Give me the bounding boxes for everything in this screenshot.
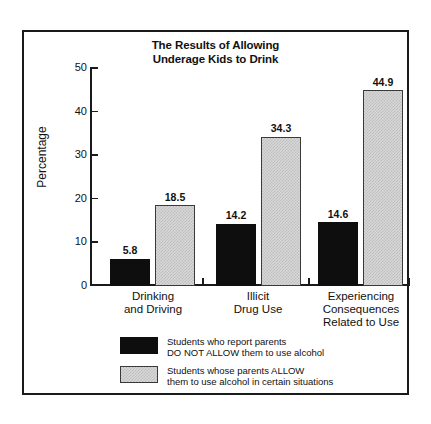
legend-label-allow-line-1: Students whose parents ALLOW <box>167 365 333 376</box>
chart-legend: Students who report parents DO NOT ALLOW… <box>120 336 410 394</box>
bar-value-experiencing-consequences-not-allowed: 14.6 <box>316 209 360 220</box>
category-label-experiencing-consequences-line-2: Consequences <box>296 303 426 316</box>
y-tick-20 <box>92 198 98 200</box>
legend-item-allow[interactable]: Students whose parents ALLOW them to use… <box>120 365 410 387</box>
y-tick-40 <box>92 111 98 113</box>
bar-value-experiencing-consequences-allowed: 44.9 <box>361 77 405 88</box>
y-tick-label-20: 20 <box>47 193 87 204</box>
y-tick-label-10: 10 <box>47 236 87 247</box>
legend-swatch-dark-icon <box>120 337 158 354</box>
y-tick-50 <box>92 67 98 69</box>
category-label-experiencing-consequences-line-1: Experiencing <box>296 290 426 303</box>
legend-label-allow: Students whose parents ALLOW them to use… <box>167 365 333 387</box>
bar-value-drinking-and-driving-not-allowed: 5.8 <box>110 245 150 256</box>
category-label-experiencing-consequences: Experiencing Consequences Related to Use <box>296 290 426 329</box>
x-tick-group-divider-2 <box>308 278 310 285</box>
bar-illicit-drug-use-allowed[interactable] <box>261 137 301 287</box>
legend-swatch-light-icon <box>120 366 158 383</box>
bar-value-illicit-drug-use-allowed: 34.3 <box>259 123 303 134</box>
bar-experiencing-consequences-not-allowed[interactable] <box>318 222 358 286</box>
legend-label-do-not-allow: Students who report parents DO NOT ALLOW… <box>167 336 324 358</box>
bar-illicit-drug-use-not-allowed[interactable] <box>216 224 256 286</box>
y-tick-label-0: 0 <box>47 280 87 291</box>
legend-item-do-not-allow[interactable]: Students who report parents DO NOT ALLOW… <box>120 336 410 358</box>
legend-label-do-not-allow-line-1: Students who report parents <box>167 336 324 347</box>
legend-label-allow-line-2: them to use alcohol in certain situation… <box>167 376 333 387</box>
y-tick-label-30: 30 <box>47 149 87 160</box>
y-tick-label-50: 50 <box>47 62 87 73</box>
bar-experiencing-consequences-allowed[interactable] <box>363 90 403 286</box>
figure-frame: The Results of Allowing Underage Kids to… <box>22 30 409 395</box>
y-tick-label-40: 40 <box>47 106 87 117</box>
y-axis-line <box>90 67 92 286</box>
y-tick-10 <box>92 241 98 243</box>
y-tick-30 <box>92 154 98 156</box>
legend-label-do-not-allow-line-2: DO NOT ALLOW them to use alcohol <box>167 347 324 358</box>
bar-value-drinking-and-driving-allowed: 18.5 <box>153 192 197 203</box>
bar-drinking-and-driving-allowed[interactable] <box>155 205 195 286</box>
bar-drinking-and-driving-not-allowed[interactable] <box>110 259 150 286</box>
x-tick-group-divider-1 <box>202 278 204 285</box>
category-label-experiencing-consequences-line-3: Related to Use <box>296 316 426 329</box>
bar-value-illicit-drug-use-not-allowed: 14.2 <box>214 210 258 221</box>
x-tick-axis-end <box>408 278 410 285</box>
